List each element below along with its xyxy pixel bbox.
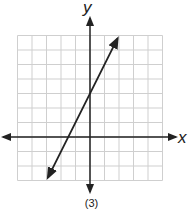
coordinate-plane — [0, 0, 191, 213]
x-axis-label: x — [178, 128, 187, 148]
y-axis-label: y — [83, 0, 92, 18]
figure-caption: (3) — [0, 197, 183, 209]
